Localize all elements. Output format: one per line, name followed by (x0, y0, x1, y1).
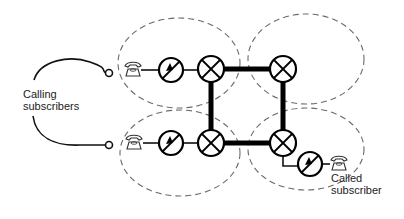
telephone-network-diagram: Calling subscribers Called subscriber (0, 0, 404, 219)
telephone-icon (331, 156, 347, 170)
calling-subscribers-label-line2: subscribers (23, 100, 80, 112)
trunk-lines (211, 69, 283, 143)
calling-lead-bottom (33, 116, 106, 145)
exchange-zones (118, 14, 364, 196)
telephone-icon (125, 62, 141, 76)
telephone-icon (126, 135, 142, 149)
meter-calling-top (159, 58, 183, 82)
called-subscriber-label-line2: subscriber (331, 184, 382, 196)
switch-bottom-right (270, 130, 296, 156)
calling-subscribers-label-line1: Calling (23, 88, 57, 100)
switch-top-left (198, 56, 224, 82)
meter-called (298, 152, 322, 176)
called-subscriber-label-line1: Called (331, 172, 362, 184)
zone-top-right (248, 14, 364, 104)
meter-calling-bottom (159, 131, 183, 155)
zone-bottom-left (120, 110, 240, 196)
switch-top-right (270, 56, 296, 82)
terminal-bottom (106, 142, 113, 149)
switch-bottom-left (198, 130, 224, 156)
calling-lead-top (34, 59, 106, 80)
terminal-top (106, 70, 113, 77)
